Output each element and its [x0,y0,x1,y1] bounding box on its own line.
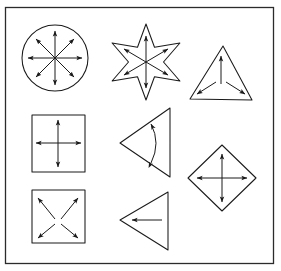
shape-square-diagonal-arrows [32,190,85,243]
triangle-outline [120,192,168,250]
arrow-curved-double-head [151,124,156,163]
triangle-outline [120,108,170,177]
arrow-down-right [55,58,74,77]
arrow-down-right [226,82,245,94]
arrow-up-left [38,198,55,219]
arrow-up-left [36,39,55,58]
shape-triangle-three-arrows [190,46,252,100]
figure-frame [6,8,274,264]
shape-triangle-curved-arrow [120,108,170,177]
figure-canvas [0,0,281,271]
shape-square-cross-arrows [32,115,85,172]
shape-circle-eight-arrows [22,25,88,91]
arrow-down-left [38,224,55,238]
arrow-up-right [61,198,78,219]
arrow-up-right [55,39,74,58]
shape-star-six-arrows [112,24,180,100]
shape-triangle-single-arrow [120,192,168,250]
shape-diamond-cross-arrows [188,145,256,211]
symmetry-arrow-diagram [0,0,281,271]
arrow-down-left [36,58,55,77]
square-outline [32,190,85,243]
arrow-down-right [61,224,78,238]
